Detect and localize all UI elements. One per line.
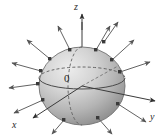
figure-container: z y x 0 bbox=[0, 0, 166, 136]
base-dot-2 bbox=[39, 69, 42, 72]
base-dot-10 bbox=[96, 116, 99, 119]
base-dot-12 bbox=[102, 40, 105, 43]
origin-label: 0 bbox=[64, 73, 70, 84]
normal-vector-7 bbox=[112, 40, 134, 60]
base-dot-5 bbox=[68, 48, 71, 51]
normal-vector-10 bbox=[98, 118, 112, 134]
normal-vector-8 bbox=[120, 62, 150, 72]
sphere-diagram-svg bbox=[0, 0, 166, 136]
z-axis-label: z bbox=[74, 2, 78, 12]
base-dot-4 bbox=[41, 98, 44, 101]
normal-vector-5 bbox=[58, 26, 70, 50]
normal-vector-4 bbox=[14, 100, 43, 113]
base-dot-6 bbox=[94, 48, 97, 51]
normal-vector-11 bbox=[52, 120, 64, 134]
normal-vector-9 bbox=[118, 104, 146, 122]
base-dot-8 bbox=[118, 70, 121, 73]
normal-vector-1 bbox=[27, 40, 50, 59]
base-dot-1 bbox=[48, 57, 51, 60]
normal-vector-2 bbox=[12, 63, 41, 71]
base-dot-11 bbox=[62, 118, 65, 121]
x-axis-label: x bbox=[12, 120, 16, 130]
y-axis-label: y bbox=[150, 112, 154, 122]
base-dot-9 bbox=[116, 102, 119, 105]
base-dot-3 bbox=[36, 82, 39, 85]
base-dot-7 bbox=[110, 58, 113, 61]
normal-vector-3 bbox=[9, 84, 38, 88]
normal-vector-6 bbox=[96, 26, 110, 50]
